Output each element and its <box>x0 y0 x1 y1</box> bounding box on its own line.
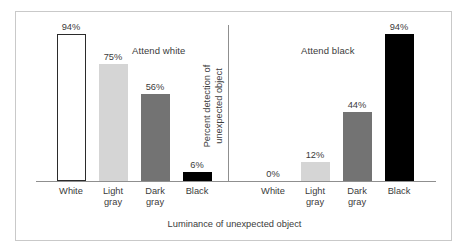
bar-value-label: 0% <box>266 169 279 179</box>
bar-attend-white-dark-gray[interactable] <box>141 94 170 181</box>
tick-label-line1: White <box>261 186 285 196</box>
chart-figure-frame: Attend white Attend black Percent detect… <box>15 11 452 241</box>
bar-value-label: 12% <box>306 150 325 160</box>
tick-label-line2: gray <box>92 197 134 208</box>
bar-group-attend-black-2: 44% <box>336 25 378 181</box>
bar-attend-black-black[interactable] <box>385 34 414 181</box>
bar-wrap: 44% <box>336 25 378 181</box>
tick-label-line1: Black <box>186 186 209 196</box>
bar-value-label: 94% <box>62 22 81 32</box>
bar-value-label: 44% <box>348 100 367 110</box>
bar-attend-black-light-gray[interactable] <box>301 162 330 181</box>
bar-value-label: 94% <box>390 22 409 32</box>
tick-label-line1: Black <box>388 186 411 196</box>
bar-group-attend-white-1: 75% <box>92 25 134 181</box>
tick-label-line2: gray <box>134 197 176 208</box>
x-axis-title: Luminance of unexpected object <box>16 219 453 229</box>
tick-label-attend-black-2: Darkgray <box>336 186 378 208</box>
chart-plot-area: Attend white Attend black Percent detect… <box>16 12 453 242</box>
bar-wrap: 94% <box>50 25 92 181</box>
bar-group-attend-black-0: 0% <box>252 25 294 181</box>
tick-label-attend-white-0: White <box>50 186 92 197</box>
tick-label-line1: Light <box>305 186 325 196</box>
tick-label-line2: gray <box>336 197 378 208</box>
tick-label-attend-white-1: Lightgray <box>92 186 134 208</box>
bar-wrap: 0% <box>252 25 294 181</box>
tick-label-line1: Light <box>103 186 123 196</box>
bar-group-attend-white-2: 56% <box>134 25 176 181</box>
bar-value-label: 75% <box>104 52 123 62</box>
category-axis-line <box>36 181 436 182</box>
tick-label-attend-white-2: Darkgray <box>134 186 176 208</box>
bar-wrap: 6% <box>176 25 218 181</box>
bar-wrap: 12% <box>294 25 336 181</box>
bar-attend-white-light-gray[interactable] <box>99 64 128 181</box>
bar-wrap: 56% <box>134 25 176 181</box>
tick-label-line2: gray <box>294 197 336 208</box>
tick-label-line1: Dark <box>145 186 165 196</box>
bar-group-attend-white-0: 94% <box>50 25 92 181</box>
bar-value-label: 6% <box>190 160 203 170</box>
tick-label-line1: Dark <box>347 186 367 196</box>
bar-value-label: 56% <box>146 82 165 92</box>
bar-attend-white-white[interactable] <box>57 34 86 181</box>
value-axis-line <box>228 25 229 182</box>
bar-attend-white-black[interactable] <box>183 172 212 181</box>
tick-label-attend-black-0: White <box>252 186 294 197</box>
tick-label-attend-black-3: Black <box>378 186 420 197</box>
bar-attend-black-dark-gray[interactable] <box>343 112 372 181</box>
bar-group-attend-white-3: 6% <box>176 25 218 181</box>
tick-label-attend-black-1: Lightgray <box>294 186 336 208</box>
bar-group-attend-black-1: 12% <box>294 25 336 181</box>
bar-wrap: 75% <box>92 25 134 181</box>
bar-wrap: 94% <box>378 25 420 181</box>
bar-group-attend-black-3: 94% <box>378 25 420 181</box>
tick-label-line1: White <box>59 186 83 196</box>
tick-label-attend-white-3: Black <box>176 186 218 197</box>
